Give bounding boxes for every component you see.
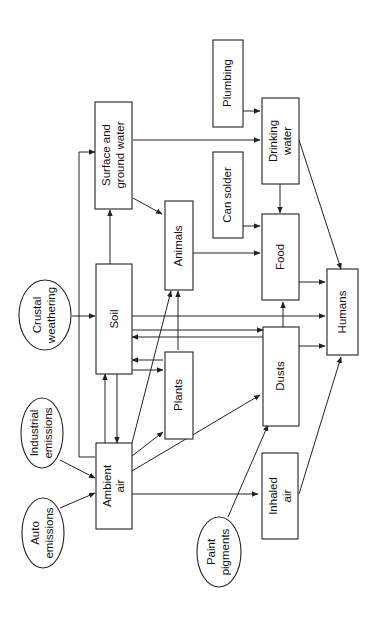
label-paint-pigments-2: pigments: [219, 528, 231, 575]
label-inhaled-air-2: air: [281, 489, 293, 502]
label-paint-pigments-1: Paint: [205, 538, 217, 565]
node-inhaled-air: Inhaled air: [262, 453, 298, 539]
label-food: Food: [274, 244, 286, 270]
edge-auto-ambient: [60, 493, 95, 508]
label-industrial-emissions-1: Industrial: [28, 410, 40, 457]
lead-exposure-pathway-diagram: Auto emissions Industrial emissions Crus…: [0, 0, 371, 623]
label-drinking-water-2: water: [281, 127, 293, 156]
label-auto-emissions-2: emissions: [43, 507, 55, 558]
label-humans: Humans: [336, 290, 348, 333]
edge-ambient-surfacewater: [79, 152, 95, 457]
label-plumbing: Plumbing: [221, 59, 233, 107]
edge-inhaled-humans: [299, 357, 341, 494]
label-ambient-air-2: air: [114, 479, 126, 492]
label-can-solder: Can solder: [221, 167, 233, 223]
label-industrial-emissions-2: emissions: [42, 407, 54, 458]
label-dusts: Dusts: [274, 361, 286, 391]
node-humans: Humans: [327, 269, 358, 355]
label-drinking-water-1: Drinking: [267, 120, 279, 162]
label-surface-ground-water-1: Surface and: [100, 124, 112, 186]
label-surface-ground-water-2: ground water: [114, 121, 126, 188]
edge-industrial-ambient: [60, 460, 95, 478]
node-drinking-water: Drinking water: [262, 98, 299, 184]
node-dusts: Dusts: [263, 327, 299, 426]
node-auto-emissions: Auto emissions: [22, 498, 64, 568]
node-can-solder: Can solder: [213, 152, 243, 238]
node-surface-ground-water: Surface and ground water: [95, 102, 132, 209]
node-plants: Plants: [165, 352, 193, 439]
node-ambient-air: Ambient air: [96, 443, 132, 529]
edge-drinking-humans: [299, 140, 341, 269]
label-crustal-weathering-2: weathering: [45, 287, 57, 344]
edge-ambient-plants: [132, 432, 163, 456]
node-industrial-emissions: Industrial emissions: [21, 398, 63, 468]
edge-ambient-dusts: [132, 395, 260, 471]
label-soil: Soil: [108, 309, 120, 328]
label-inhaled-air-1: Inhaled: [267, 477, 279, 515]
label-plants: Plants: [172, 379, 184, 411]
label-animals: Animals: [172, 225, 184, 266]
label-crustal-weathering-1: Crustal: [31, 297, 43, 333]
node-animals: Animals: [165, 201, 193, 290]
node-soil: Soil: [96, 264, 132, 374]
node-paint-pigments: Paint pigments: [197, 517, 241, 587]
node-plumbing: Plumbing: [213, 40, 243, 127]
label-ambient-air-1: Ambient: [101, 464, 113, 507]
edge-surfacewater-animals: [133, 198, 162, 214]
node-food: Food: [262, 214, 299, 300]
node-crustal-weathering: Crustal weathering: [19, 280, 71, 350]
label-auto-emissions-1: Auto: [29, 521, 41, 545]
